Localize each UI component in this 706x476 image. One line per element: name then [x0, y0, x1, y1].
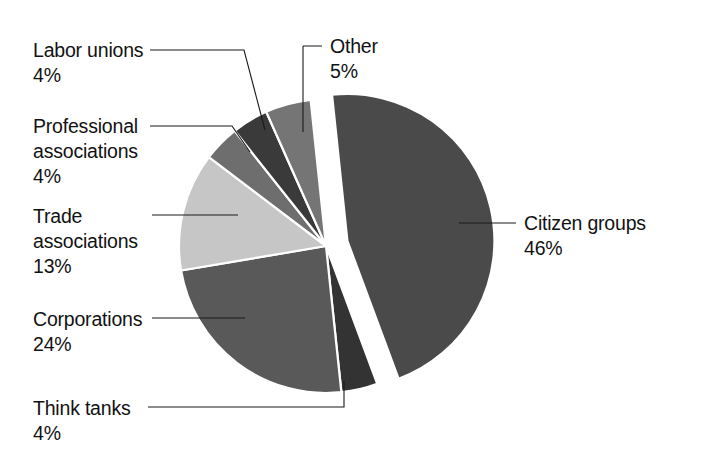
label-labor-unions-name: Labor unions — [33, 38, 143, 63]
leader-line-labor-unions — [150, 50, 265, 130]
label-citizen-groups-percent: 46% — [524, 236, 646, 261]
label-think-tanks-name: Think tanks — [33, 396, 131, 421]
label-corporations: Corporations 24% — [33, 307, 142, 357]
label-professional-line2: associations — [33, 139, 138, 164]
label-trade-line1: Trade — [33, 204, 138, 229]
pie-chart-figure: Labor unions 4% Professional association… — [0, 0, 706, 476]
label-citizen-groups: Citizen groups 46% — [524, 211, 646, 261]
label-other-name: Other — [330, 34, 378, 59]
label-corporations-name: Corporations — [33, 307, 142, 332]
label-professional-associations: Professional associations 4% — [33, 114, 138, 189]
label-professional-line1: Professional — [33, 114, 138, 139]
label-other-percent: 5% — [330, 59, 378, 84]
label-other: Other 5% — [330, 34, 378, 84]
label-trade-line2: associations — [33, 229, 138, 254]
label-think-tanks: Think tanks 4% — [33, 396, 131, 446]
label-corporations-percent: 24% — [33, 332, 142, 357]
label-trade-percent: 13% — [33, 254, 138, 279]
label-labor-unions-percent: 4% — [33, 63, 143, 88]
label-citizen-groups-name: Citizen groups — [524, 211, 646, 236]
label-professional-percent: 4% — [33, 164, 138, 189]
label-think-tanks-percent: 4% — [33, 421, 131, 446]
label-labor-unions: Labor unions 4% — [33, 38, 143, 88]
pie-slice-corporations[interactable] — [181, 246, 341, 393]
label-trade-associations: Trade associations 13% — [33, 204, 138, 279]
pie-slices-group — [179, 94, 494, 393]
